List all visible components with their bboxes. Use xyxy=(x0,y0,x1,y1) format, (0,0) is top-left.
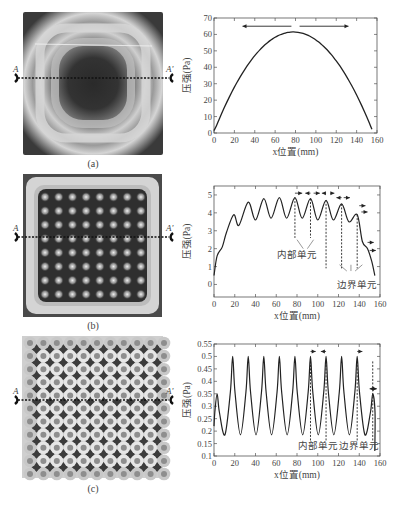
section-label-a-left: A xyxy=(12,64,19,74)
y-tick-label: 30 xyxy=(204,79,213,89)
x-tick-label: 100 xyxy=(310,135,323,145)
y-axis-label: 压强(Pa) xyxy=(182,224,193,260)
y-tick-label: 0.25 xyxy=(197,414,212,424)
y-tick-label: 0.45 xyxy=(197,364,212,374)
annotation-boundary-cell: 边界单元 xyxy=(339,440,379,451)
y-tick-label: 40 xyxy=(204,62,213,72)
y-tick-label: 0 xyxy=(208,279,212,289)
y-tick-label: 2 xyxy=(208,244,212,254)
section-marker-left-b xyxy=(15,233,18,241)
plot-frame xyxy=(214,344,380,456)
x-tick-label: 20 xyxy=(231,299,240,309)
y-tick-label: 1 xyxy=(208,262,212,272)
annotation-interior-cell: 内部单元 xyxy=(277,249,317,260)
y-tick-label: 50 xyxy=(204,46,213,56)
plot-frame xyxy=(214,18,377,133)
figure-canvas: A A' A A' A A' (a) (b) (c) 0204060801001… xyxy=(0,0,405,506)
x-tick-label: 40 xyxy=(251,299,260,309)
x-axis-label: x位置(mm) xyxy=(273,146,319,158)
y-tick-label: 20 xyxy=(204,95,213,105)
y-tick-label: 0.55 xyxy=(197,339,212,349)
section-label-b-left: A xyxy=(12,223,19,233)
x-tick-label: 80 xyxy=(291,135,300,145)
x-tick-label: 160 xyxy=(374,299,387,309)
x-tick-label: 0 xyxy=(212,458,216,468)
x-tick-label: 60 xyxy=(272,458,281,468)
x-tick-label: 140 xyxy=(350,135,363,145)
y-tick-label: 4 xyxy=(208,208,213,218)
y-axis-label: 压强(Pa) xyxy=(182,58,193,94)
section-marker-right-b xyxy=(171,233,174,241)
y-tick-label: 0.3 xyxy=(201,401,212,411)
panel-b-image xyxy=(15,174,173,317)
pressure-curve xyxy=(214,198,375,276)
y-tick-label: 0.5 xyxy=(201,351,212,361)
y-tick-label: 0 xyxy=(208,128,212,138)
pressure-curve xyxy=(214,32,372,131)
section-marker-left-c xyxy=(15,396,18,404)
x-tick-label: 100 xyxy=(311,458,324,468)
y-axis-label: 压强(Pa) xyxy=(182,382,193,418)
x-tick-label: 20 xyxy=(231,458,240,468)
x-tick-label: 140 xyxy=(353,458,366,468)
y-tick-label: 5 xyxy=(208,190,212,200)
y-tick-label: 3 xyxy=(208,226,212,236)
x-tick-label: 20 xyxy=(230,135,239,145)
x-tick-label: 120 xyxy=(332,458,345,468)
x-tick-label: 80 xyxy=(293,458,302,468)
y-tick-label: 0.35 xyxy=(197,389,212,399)
x-tick-label: 100 xyxy=(311,299,324,309)
x-tick-label: 60 xyxy=(272,299,281,309)
y-tick-label: 0.1 xyxy=(201,451,212,461)
y-tick-label: 60 xyxy=(204,29,213,39)
panel-c-image xyxy=(15,336,173,480)
y-tick-label: 10 xyxy=(204,112,213,122)
x-tick-label: 120 xyxy=(330,135,343,145)
x-tick-label: 140 xyxy=(353,299,366,309)
x-tick-label: 0 xyxy=(212,135,216,145)
chart-b: 020406080100120140160012345x位置(mm)压强(Pa)… xyxy=(182,186,386,322)
x-tick-label: 40 xyxy=(251,135,260,145)
x-tick-label: 80 xyxy=(293,299,302,309)
x-tick-label: 160 xyxy=(374,458,387,468)
section-marker-right-a xyxy=(171,74,174,82)
annotation-boundary-cell: 边界单元 xyxy=(337,279,377,290)
y-tick-label: 0.4 xyxy=(201,376,212,386)
section-label-c-right: A' xyxy=(165,386,174,396)
caption-b: (b) xyxy=(87,320,99,332)
x-axis-label: x位置(mm) xyxy=(274,469,320,481)
y-tick-label: 0.2 xyxy=(201,426,212,436)
chart-a: 020406080100120140160010203040506070x位置(… xyxy=(182,13,383,158)
section-label-c-left: A xyxy=(12,386,19,396)
x-tick-label: 0 xyxy=(212,299,216,309)
x-tick-label: 40 xyxy=(251,458,260,468)
panel-a-image xyxy=(15,12,173,155)
section-label-b-right: A' xyxy=(165,223,174,233)
section-marker-right-c xyxy=(171,396,174,404)
x-tick-label: 160 xyxy=(371,135,384,145)
annotation-interior-cell: 内部单元 xyxy=(298,440,338,451)
x-tick-label: 60 xyxy=(271,135,280,145)
section-label-a-right: A' xyxy=(165,64,174,74)
x-tick-label: 120 xyxy=(332,299,345,309)
x-axis-label: x位置(mm) xyxy=(274,310,320,322)
chart-c: 0204060801001201401600.10.150.20.250.30.… xyxy=(182,339,386,481)
caption-c: (c) xyxy=(87,483,98,495)
pressure-curve xyxy=(214,356,375,451)
y-tick-label: 0.15 xyxy=(197,439,212,449)
section-marker-left-a xyxy=(15,74,18,82)
y-tick-label: 70 xyxy=(204,13,213,23)
caption-a: (a) xyxy=(87,158,98,170)
